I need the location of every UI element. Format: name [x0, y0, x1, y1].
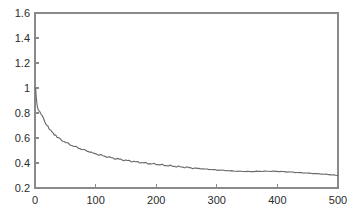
x-tick-label: 100 [86, 194, 104, 206]
line-chart: 0.20.40.60.811.21.41.6 0100200300400500 [0, 0, 354, 223]
y-tick-label: 0.4 [15, 157, 30, 169]
x-tick-label: 500 [329, 194, 347, 206]
x-tick-label: 0 [32, 194, 38, 206]
y-tick-label: 1.4 [15, 32, 30, 44]
chart-background [0, 0, 354, 223]
y-tick-label: 1.2 [15, 57, 30, 69]
x-tick-label: 200 [147, 194, 165, 206]
y-tick-label: 1 [24, 82, 30, 94]
y-tick-label: 0.2 [15, 182, 30, 194]
y-tick-label: 1.6 [15, 7, 30, 19]
figure-canvas: 0.20.40.60.811.21.41.6 0100200300400500 [0, 0, 354, 223]
y-tick-label: 0.6 [15, 132, 30, 144]
x-tick-label: 300 [208, 194, 226, 206]
y-tick-label: 0.8 [15, 107, 30, 119]
x-tick-label: 400 [268, 194, 286, 206]
